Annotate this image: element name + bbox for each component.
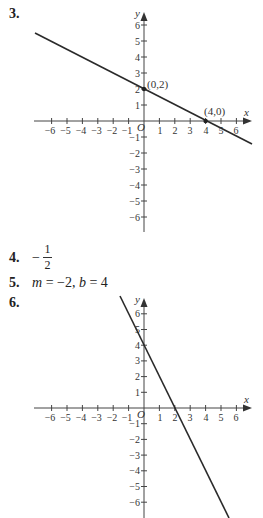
svg-text:−4: −4 xyxy=(76,412,87,423)
svg-text:−3: −3 xyxy=(129,450,140,461)
svg-text:6: 6 xyxy=(135,20,140,31)
answer-4-sign: − xyxy=(32,250,40,266)
svg-text:2: 2 xyxy=(173,412,178,423)
x-axis-arrow-icon xyxy=(243,118,252,125)
svg-text:4: 4 xyxy=(204,125,209,136)
svg-text:5: 5 xyxy=(135,36,140,47)
graph-problem-6: −6 −5 −4 −3 −2 −1 1 2 3 4 5 6 O 1 2 3 4 … xyxy=(0,287,263,518)
svg-text:3: 3 xyxy=(188,412,193,423)
svg-text:−3: −3 xyxy=(91,125,102,136)
svg-text:−2: −2 xyxy=(129,434,140,445)
svg-text:−4: −4 xyxy=(129,465,140,476)
svg-text:2: 2 xyxy=(173,125,178,136)
svg-text:−1: −1 xyxy=(129,132,140,143)
svg-text:−5: −5 xyxy=(129,196,140,207)
svg-text:6: 6 xyxy=(234,412,239,423)
svg-text:−3: −3 xyxy=(129,164,140,175)
svg-text:−3: −3 xyxy=(91,412,102,423)
problem-number-4: 4. xyxy=(9,250,20,266)
svg-text:−2: −2 xyxy=(129,148,140,159)
svg-text:3: 3 xyxy=(135,68,140,79)
svg-text:1: 1 xyxy=(135,100,140,111)
svg-text:4: 4 xyxy=(204,412,209,423)
graph-problem-3: −6 −5 −4 −3 −2 −1 1 2 3 4 5 6 O 1 2 3 4 … xyxy=(0,0,263,240)
svg-text:−5: −5 xyxy=(60,412,71,423)
svg-text:3: 3 xyxy=(135,355,140,366)
svg-text:4: 4 xyxy=(135,52,140,63)
svg-text:−6: −6 xyxy=(45,412,56,423)
point-4-0 xyxy=(203,119,207,123)
svg-text:5: 5 xyxy=(219,412,224,423)
point-label-4-0: (4,0) xyxy=(204,105,225,118)
fraction-numerator: 1 xyxy=(43,243,52,256)
y-axis-arrow-icon xyxy=(141,298,148,307)
fraction-denominator: 2 xyxy=(43,259,52,272)
x-axis-label: x xyxy=(243,106,249,118)
svg-text:−2: −2 xyxy=(107,412,118,423)
y-axis-label: y xyxy=(134,7,140,19)
svg-text:4: 4 xyxy=(135,340,140,351)
point-0-2 xyxy=(142,87,146,91)
svg-text:6: 6 xyxy=(135,308,140,319)
svg-text:−4: −4 xyxy=(76,125,87,136)
svg-text:−6: −6 xyxy=(129,212,140,223)
x-axis-label: x xyxy=(243,393,249,405)
svg-text:−6: −6 xyxy=(45,125,56,136)
svg-text:−4: −4 xyxy=(129,180,140,191)
svg-text:−1: −1 xyxy=(129,418,140,429)
svg-text:−5: −5 xyxy=(129,481,140,492)
svg-text:1: 1 xyxy=(158,125,163,136)
y-axis-arrow-icon xyxy=(141,12,148,21)
svg-text:2: 2 xyxy=(135,371,140,382)
x-axis-arrow-icon xyxy=(243,405,252,412)
svg-text:3: 3 xyxy=(188,125,193,136)
answer-4-fraction: 1 2 xyxy=(43,243,52,272)
svg-text:1: 1 xyxy=(158,412,163,423)
svg-text:1: 1 xyxy=(135,387,140,398)
svg-text:−5: −5 xyxy=(60,125,71,136)
point-label-0-2: (0,2) xyxy=(147,78,168,91)
svg-text:−6: −6 xyxy=(129,497,140,508)
y-axis-label: y xyxy=(134,293,140,305)
svg-text:−2: −2 xyxy=(107,125,118,136)
